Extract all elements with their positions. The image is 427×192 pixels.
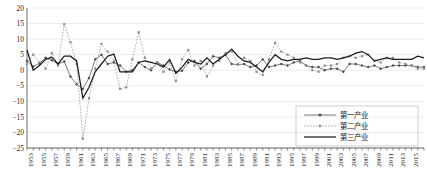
data-point: [45, 68, 47, 70]
data-point: [336, 67, 339, 70]
data-point: [292, 61, 295, 64]
data-point: [125, 86, 127, 88]
data-point: [379, 67, 382, 70]
data-point: [119, 88, 121, 90]
data-point: [305, 64, 307, 66]
x-axis-tick-label: 1989: [251, 153, 259, 168]
x-axis-tick-label: 1979: [188, 153, 196, 168]
chart-legend: 第一产业第二产业第三产业: [296, 106, 418, 146]
data-point: [317, 66, 320, 69]
x-axis-tick-label: 1957: [52, 153, 60, 168]
data-point: [330, 64, 332, 66]
data-point: [404, 63, 406, 65]
data-point: [113, 60, 115, 62]
x-axis-tick-label: 2003: [337, 153, 345, 168]
data-point: [255, 71, 257, 73]
data-point: [323, 69, 326, 72]
data-point: [280, 63, 283, 66]
data-point: [324, 64, 326, 66]
x-axis-tick-label: 1953: [27, 153, 35, 168]
data-point: [162, 71, 164, 73]
legend-label-1: 第一产业: [340, 110, 369, 120]
series-line-3: [27, 49, 424, 98]
data-point: [274, 42, 276, 44]
data-point: [367, 66, 370, 69]
legend-marker-1: [318, 113, 322, 117]
x-axis-tick-label: 1973: [151, 153, 159, 168]
data-point: [391, 64, 394, 67]
data-point: [262, 74, 264, 76]
series-line-1: [27, 55, 424, 89]
x-axis-tick-label: 1983: [213, 153, 221, 168]
data-point: [243, 57, 245, 59]
y-axis-tick-label: −20: [12, 128, 24, 137]
x-axis-tick-label: 2001: [325, 153, 333, 168]
data-point: [423, 68, 425, 70]
x-axis-tick-label: 1975: [164, 153, 172, 168]
data-point: [379, 61, 381, 63]
data-point: [38, 61, 40, 63]
data-point: [100, 43, 102, 45]
x-axis-tick-label: 2005: [350, 153, 358, 168]
legend-label-3: 第三产业: [340, 132, 369, 142]
data-point: [181, 58, 183, 60]
y-axis-tick-label: 15: [17, 19, 25, 28]
x-axis-tick-label: 1977: [176, 153, 184, 168]
data-point: [286, 64, 289, 67]
x-axis-tick-label: 2011: [387, 153, 395, 167]
y-axis-tick-label: 10: [17, 35, 25, 44]
data-point: [373, 64, 376, 67]
data-point: [417, 68, 419, 70]
x-axis-tick-label: 1985: [226, 153, 234, 168]
x-axis-tick-label: 2013: [399, 153, 407, 168]
data-point: [107, 50, 109, 52]
y-axis-ticks: 20151050−5−10−15−20−25: [12, 4, 24, 153]
data-point: [354, 63, 357, 66]
data-point: [410, 64, 412, 66]
data-point: [293, 57, 295, 59]
data-point: [360, 64, 363, 67]
data-point: [193, 64, 195, 66]
data-point: [94, 68, 96, 70]
data-point: [32, 54, 34, 56]
data-point: [336, 63, 338, 65]
data-point: [63, 23, 65, 25]
data-point: [317, 71, 319, 73]
data-point: [398, 64, 401, 67]
data-point: [144, 57, 146, 59]
x-axis-tick-label: 1963: [89, 153, 97, 168]
data-point: [82, 138, 84, 140]
chart-container: 20151050−5−10−15−20−25 19531955195719591…: [0, 0, 427, 192]
x-axis-tick-label: 1999: [313, 153, 321, 168]
x-axis-tick-label: 1991: [263, 153, 271, 168]
data-point: [212, 64, 214, 66]
y-axis-tick-label: −5: [16, 81, 24, 90]
y-axis-tick-label: 0: [20, 66, 24, 75]
data-point: [286, 54, 288, 56]
x-axis-tick-label: 2015: [412, 153, 420, 168]
x-axis-tick-label: 1971: [139, 153, 147, 168]
data-point: [385, 66, 388, 69]
data-point: [175, 80, 177, 82]
data-point: [361, 55, 363, 57]
x-axis-tick-label: 1967: [114, 153, 122, 168]
y-axis-tick-label: 5: [20, 50, 24, 59]
x-axis-ticks: 1953195519571959196119631965196719691971…: [27, 148, 424, 167]
x-axis-tick-label: 1987: [238, 153, 246, 168]
data-point: [311, 66, 314, 69]
data-point: [206, 75, 208, 77]
data-point: [355, 57, 357, 59]
x-axis-tick-label: 1969: [126, 153, 134, 168]
data-point: [200, 60, 202, 62]
data-point: [329, 67, 332, 70]
y-axis-tick-label: −25: [12, 144, 24, 153]
y-axis-tick-label: −10: [12, 97, 24, 106]
x-axis-tick-label: 1955: [40, 153, 48, 168]
data-point: [274, 64, 277, 67]
data-point: [299, 61, 301, 63]
x-axis-tick-label: 1995: [288, 153, 296, 168]
line-chart: 20151050−5−10−15−20−25 19531955195719591…: [0, 0, 427, 192]
data-point: [237, 63, 239, 65]
x-axis-tick-label: 2009: [375, 153, 383, 168]
data-point: [131, 58, 133, 60]
